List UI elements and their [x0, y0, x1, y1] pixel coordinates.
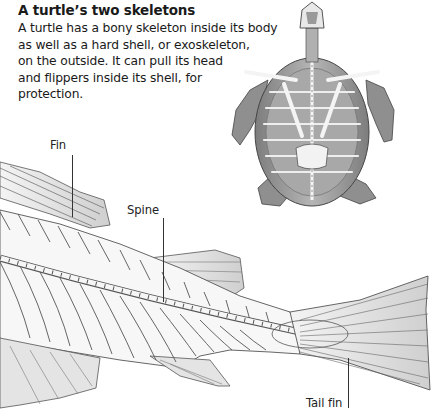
fin-label: Fin — [50, 138, 66, 152]
page-heading: A turtle’s two skeletons — [18, 2, 195, 18]
tail-fin-leader-line — [348, 358, 349, 408]
body-line: A turtle has a bony skeleton inside its … — [18, 20, 318, 37]
body-line: on the outside. It can pull its head — [18, 53, 318, 70]
tail-fin-label: Tail fin — [306, 396, 342, 410]
fin-leader-line — [72, 155, 73, 217]
body-paragraph: A turtle has a bony skeleton inside its … — [18, 20, 318, 103]
body-line: and flippers inside its shell, for — [18, 70, 318, 87]
spine-label: Spine — [127, 203, 159, 217]
body-line: protection. — [18, 86, 318, 103]
body-line: as well as a hard shell, or exoskeleton, — [18, 37, 318, 54]
spine-leader-line — [163, 218, 164, 302]
